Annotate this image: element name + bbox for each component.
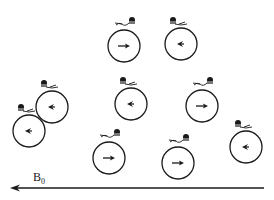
spin [165,17,197,60]
arrow-left-icon [48,104,55,110]
spin [186,77,218,122]
swimmer-icon [115,17,135,25]
spin [36,80,68,123]
swimmer-icon [100,129,120,137]
b0-label-text: B [33,170,41,184]
swimmer-icon [193,77,213,85]
arrow-left-icon [242,144,249,150]
swimmer-icon [235,120,252,128]
swimmer-icon [170,17,187,25]
spin [108,17,140,62]
b0-field-arrow [10,185,264,192]
swimmer-icon [18,104,35,112]
arrow-right-icon [172,161,184,166]
spin [162,134,194,179]
swimmer-icon [120,77,137,85]
spin [230,120,262,163]
arrow-left-icon [127,101,134,107]
spin-group [13,17,262,179]
b0-field-label: B0 [33,170,45,186]
arrow-right-icon [196,104,208,109]
swimmer-icon [41,80,58,88]
spin [13,104,45,147]
arrow-left-icon [177,41,184,47]
spin [115,77,147,120]
arrow-right-icon [103,156,115,161]
swimmer-icon [169,134,189,142]
arrow-left-icon [25,128,32,134]
spin [93,129,125,174]
arrow-right-icon [118,44,130,49]
b0-label-subscript: 0 [41,177,45,186]
